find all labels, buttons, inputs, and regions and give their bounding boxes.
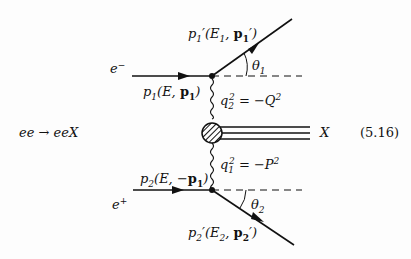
arrow-icon [178,72,190,80]
p1-prime-label: p1′(E1, p1′) [188,26,257,44]
p2-prime-label: p2′(E2, p2′) [188,225,257,243]
feynman-diagram: ee → eeX (5.16) e− e+ p1′(E1, p1′) p1(E,… [0,0,411,259]
photon-1-label: q22 = −Q2 [220,92,281,111]
process-label: ee → eeX [19,125,78,140]
theta1-label: θ1 [252,58,266,76]
theta2-label: θ2 [251,197,265,215]
e-minus-label: e− [110,60,125,76]
photon-2-label: q12 = −P2 [220,156,279,175]
equation-number: (5.16) [360,125,399,140]
vertex-1 [209,73,215,79]
blob [202,123,222,143]
e-plus-label: e+ [112,196,127,212]
vertex-2 [209,187,215,193]
p1-label: p1(E, p1) [143,84,200,102]
x-label: X [320,125,329,140]
arrow-icon [248,43,259,54]
p2-label: p2(E, −p1) [140,171,208,189]
